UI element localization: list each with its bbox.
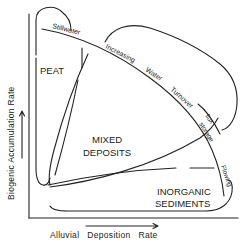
region-loops	[36, 7, 237, 211]
region-mixed-line2: DEPOSITS	[83, 147, 131, 158]
region-inorganic-line2: SEDIMENTS	[155, 198, 210, 209]
turnover-loop-upper	[105, 26, 237, 130]
x-axis-label: Alluvial Deposition Rate	[50, 230, 158, 240]
region-inorganic-line1: INORGANIC	[157, 186, 211, 197]
mixed-petal-lower	[48, 168, 176, 185]
region-mixed-line1: MIXED	[92, 134, 122, 145]
label-stillwater: Stillwater	[52, 22, 82, 36]
peat-loop-lower	[36, 58, 50, 185]
label-increasing: Increasing	[104, 43, 137, 65]
label-flowing: Flowing	[219, 164, 234, 188]
label-water: Water	[144, 66, 164, 82]
label-storage: storage	[197, 121, 215, 144]
sediment-diagram: PEAT MIXED DEPOSITS INORGANIC SEDIMENTS …	[0, 0, 245, 243]
region-peat: PEAT	[40, 65, 64, 76]
y-axis-label: Biogenic Accumulation Rate	[6, 86, 16, 200]
x-axis-arrow-icon	[86, 224, 158, 229]
y-axis-arrow-icon	[20, 111, 25, 158]
inorganic-upper-line	[50, 118, 218, 187]
